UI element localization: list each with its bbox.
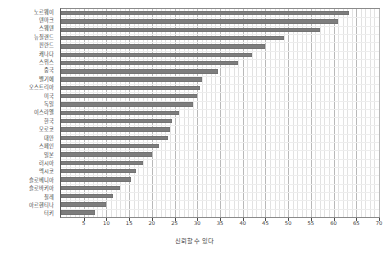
axis-tick-label: 15 [126, 221, 133, 226]
bar-row [61, 67, 379, 75]
chart-body: 노르웨이덴마크스웨덴뉴질랜드핀란드캐나다스위스중국벨기에오스트리아미국독일이스라… [0, 0, 389, 236]
category-label: 뉴질랜드 [0, 33, 57, 41]
bar [61, 11, 349, 15]
bar [61, 169, 136, 173]
bar [61, 44, 265, 48]
bar-row [61, 125, 379, 133]
bar-row [61, 76, 379, 84]
bar [61, 61, 238, 65]
bar [61, 36, 284, 40]
bar-row [61, 92, 379, 100]
bar [61, 152, 152, 156]
category-label: 아르헨티나 [0, 201, 57, 209]
axis-tick-label: 50 [285, 221, 292, 226]
category-label: 이스라엘 [0, 109, 57, 117]
bar [61, 210, 95, 214]
bar [61, 94, 197, 98]
bar-row [61, 109, 379, 117]
bar [61, 144, 159, 148]
category-label: 터키 [0, 210, 57, 218]
bar-row [61, 51, 379, 59]
bar-row [61, 184, 379, 192]
plot-area [60, 8, 380, 218]
bar [61, 77, 202, 81]
category-label: 칠레 [0, 193, 57, 201]
axis-tick-label: 55 [308, 221, 315, 226]
category-label: 멕시코 [0, 168, 57, 176]
bar-row [61, 159, 379, 167]
bar [61, 119, 172, 123]
bar [61, 127, 170, 131]
axis-tick-label: 60 [330, 221, 337, 226]
axis-tick-label: 20 [149, 221, 156, 226]
bar [61, 102, 193, 106]
bar [61, 186, 120, 190]
category-label: 스위스 [0, 58, 57, 66]
axis-tick-label: 5 [82, 221, 85, 226]
category-label: 러시아 [0, 159, 57, 167]
bar-row [61, 26, 379, 34]
bar-row [61, 142, 379, 150]
category-label: 핀란드 [0, 42, 57, 50]
category-label: 스페인 [0, 143, 57, 151]
bar-row [61, 200, 379, 208]
bar [61, 69, 218, 73]
bar [61, 53, 252, 57]
category-axis-labels: 노르웨이덴마크스웨덴뉴질랜드핀란드캐나다스위스중국벨기에오스트리아미국독일이스라… [0, 8, 57, 218]
axis-tick-label: 45 [262, 221, 269, 226]
value-axis: 510152025303540455055606570 [60, 218, 380, 230]
x-axis-title: 신뢰할 수 있다 [0, 238, 389, 244]
bar-row [61, 209, 379, 217]
category-label: 모로코 [0, 126, 57, 134]
bar-row [61, 84, 379, 92]
bar-series [61, 9, 379, 217]
bar-chart: 노르웨이덴마크스웨덴뉴질랜드핀란드캐나다스위스중국벨기에오스트리아미국독일이스라… [0, 0, 389, 260]
bar [61, 161, 143, 165]
bar [61, 28, 320, 32]
category-label: 중국 [0, 67, 57, 75]
bar-row [61, 59, 379, 67]
bar [61, 194, 113, 198]
bar [61, 111, 179, 115]
bar-row [61, 100, 379, 108]
bar-row [61, 175, 379, 183]
category-label: 덴마크 [0, 16, 57, 24]
category-label: 오스트리아 [0, 84, 57, 92]
bar-row [61, 134, 379, 142]
axis-tick-label: 65 [353, 221, 360, 226]
bar-row [61, 9, 379, 17]
category-label: 스웨덴 [0, 25, 57, 33]
bar-row [61, 192, 379, 200]
axis-tick-label: 25 [171, 221, 178, 226]
category-label: 미국 [0, 92, 57, 100]
axis-tick-label: 40 [239, 221, 246, 226]
category-label: 독일 [0, 100, 57, 108]
bar [61, 19, 338, 23]
axis-tick-label: 35 [217, 221, 224, 226]
bar-row [61, 167, 379, 175]
axis-tick-label: 70 [376, 221, 383, 226]
bar-row [61, 150, 379, 158]
category-label: 슬로바키아 [0, 185, 57, 193]
category-label: 벨기에 [0, 75, 57, 83]
bar-row [61, 34, 379, 42]
category-label: 한국 [0, 117, 57, 125]
bar [61, 136, 168, 140]
category-label: 노르웨이 [0, 8, 57, 16]
bar [61, 177, 131, 181]
category-label: 캐나다 [0, 50, 57, 58]
bar [61, 86, 200, 90]
axis-tick-label: 10 [103, 221, 110, 226]
bar-row [61, 17, 379, 25]
gridline-major [379, 9, 380, 217]
bar-row [61, 42, 379, 50]
axis-tick-label: 30 [194, 221, 201, 226]
bar [61, 202, 106, 206]
category-label: 슬로베니아 [0, 176, 57, 184]
category-label: 일본 [0, 151, 57, 159]
category-label: 대만 [0, 134, 57, 142]
bar-row [61, 117, 379, 125]
